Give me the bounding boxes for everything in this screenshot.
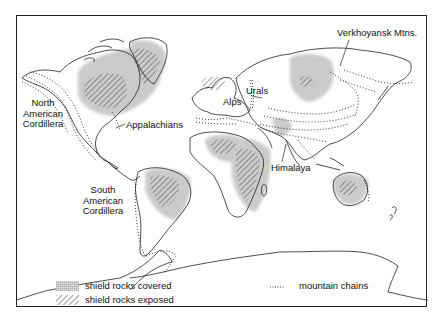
map-frame: [16, 15, 427, 307]
legend-covered-label: shield rocks covered: [85, 280, 172, 291]
label-urals: Urals: [246, 86, 268, 97]
legend-exposed-label: shield rocks exposed: [85, 294, 174, 305]
label-line: Cordillera: [80, 206, 126, 217]
label-south-american-cordillera: South American Cordillera: [80, 185, 126, 217]
label-alps: Alps: [223, 97, 241, 108]
label-north-american-cordillera: North American Cordillera: [20, 98, 66, 130]
legend-mountains-label: mountain chains: [299, 280, 368, 291]
label-line: South: [80, 185, 126, 196]
label-himalaya: Himalaya: [271, 163, 311, 174]
label-verkhoyansk: Verkhoyansk Mtns.: [337, 28, 417, 39]
label-line: Cordillera: [20, 119, 66, 130]
label-line: North: [20, 98, 66, 109]
label-appalachians: Appalachians: [126, 120, 183, 131]
